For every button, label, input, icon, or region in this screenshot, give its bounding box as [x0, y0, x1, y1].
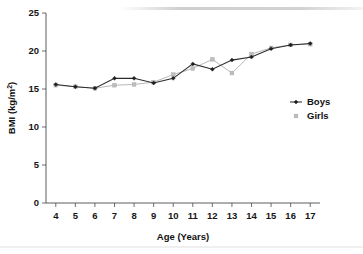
y-tick-label: 15 — [28, 83, 39, 94]
series-layer — [54, 41, 312, 90]
x-tick-label: 11 — [188, 210, 199, 221]
series-girls — [54, 42, 312, 90]
x-tick-label: 4 — [53, 210, 59, 221]
y-axis-ticks: 0510152025 — [28, 7, 46, 208]
legend-label-boys: Boys — [307, 96, 330, 107]
data-point-girls-13 — [230, 71, 234, 75]
y-tick-label: 25 — [28, 7, 39, 18]
x-tick-label: 8 — [131, 210, 136, 221]
data-point-boys-8 — [132, 76, 136, 80]
chart-plot-area: 0510152025 4567891011121314151617 BMI (k… — [0, 0, 363, 254]
legend-marker-boys — [294, 100, 298, 104]
data-point-girls-10 — [171, 73, 175, 77]
chart-legend: BoysGirls — [290, 96, 330, 121]
x-tick-label: 10 — [168, 210, 179, 221]
data-point-girls-7 — [113, 83, 117, 87]
bmi-age-chart: 0510152025 4567891011121314151617 BMI (k… — [0, 0, 363, 254]
series-line-girls — [56, 44, 310, 88]
x-tick-label: 16 — [285, 210, 296, 221]
x-tick-label: 5 — [73, 210, 79, 221]
y-tick-label: 10 — [28, 121, 39, 132]
data-point-girls-11 — [191, 67, 195, 71]
y-axis-title-tail: ) — [6, 82, 17, 85]
data-point-girls-8 — [132, 83, 136, 87]
x-tick-label: 12 — [207, 210, 218, 221]
x-tick-label: 9 — [151, 210, 156, 221]
x-tick-label: 7 — [112, 210, 117, 221]
y-axis-title: BMI (kg/m2) — [6, 82, 18, 134]
legend-marker-girls — [294, 114, 298, 118]
data-point-boys-7 — [113, 76, 117, 80]
x-axis-ticks: 4567891011121314151617 — [53, 203, 315, 221]
data-point-boys-12 — [210, 67, 214, 71]
svg-text:BMI (kg/m2): BMI (kg/m2) — [6, 82, 18, 134]
series-boys — [54, 41, 312, 90]
y-axis-title-text: BMI (kg/m — [6, 89, 17, 134]
x-tick-label: 14 — [246, 210, 257, 221]
data-point-boys-13 — [230, 58, 234, 62]
x-tick-label: 6 — [92, 210, 97, 221]
legend-label-girls: Girls — [307, 110, 329, 121]
x-tick-label: 13 — [227, 210, 238, 221]
y-tick-label: 20 — [28, 45, 39, 56]
x-axis-title: Age (Years) — [157, 231, 209, 242]
series-line-boys — [56, 43, 310, 88]
data-point-girls-12 — [210, 57, 214, 61]
legend-item-girls: Girls — [294, 110, 329, 121]
x-tick-label: 15 — [266, 210, 277, 221]
x-tick-label: 17 — [305, 210, 316, 221]
legend-item-boys: Boys — [290, 96, 330, 107]
y-tick-label: 0 — [34, 197, 39, 208]
y-tick-label: 5 — [34, 159, 40, 170]
